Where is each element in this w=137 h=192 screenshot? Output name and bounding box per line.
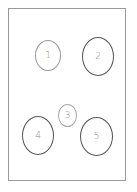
oval-node-5: 5 bbox=[80, 117, 113, 156]
oval-node-2: 2 bbox=[82, 37, 114, 76]
node-label: 3 bbox=[65, 111, 71, 120]
node-label: 5 bbox=[94, 132, 100, 141]
oval-node-4: 4 bbox=[22, 116, 54, 155]
node-label: 1 bbox=[45, 51, 51, 60]
oval-node-1: 1 bbox=[35, 40, 61, 71]
node-label: 4 bbox=[35, 131, 41, 140]
oval-node-3: 3 bbox=[58, 104, 77, 127]
diagram-frame bbox=[8, 8, 126, 181]
node-label: 2 bbox=[95, 52, 101, 61]
